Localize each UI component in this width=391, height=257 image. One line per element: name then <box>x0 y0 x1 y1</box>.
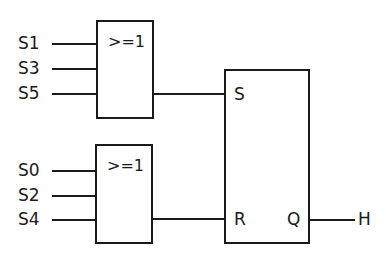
input-label-s3: S3 <box>18 60 40 77</box>
wire-s3 <box>52 68 97 70</box>
q-output-label: Q <box>287 211 300 228</box>
or-gate-2: >=1 <box>95 144 153 244</box>
set-input-label: S <box>234 86 245 103</box>
wire-s0 <box>52 170 96 172</box>
wire-s1 <box>52 43 97 45</box>
output-label-h: H <box>358 211 371 228</box>
rs-flipflop: S R Q <box>224 69 310 244</box>
input-label-s4: S4 <box>18 211 40 228</box>
input-label-s5: S5 <box>18 85 40 102</box>
or-gate-1: >=1 <box>96 20 154 119</box>
wire-s2 <box>52 195 96 197</box>
input-label-s0: S0 <box>18 162 40 179</box>
reset-input-label: R <box>234 211 246 228</box>
wire-q-output <box>309 219 355 221</box>
wire-s5 <box>52 93 97 95</box>
or-gate-2-label: >=1 <box>107 158 144 174</box>
input-label-s1: S1 <box>18 35 40 52</box>
wire-s4 <box>52 219 96 221</box>
wire-or2-to-reset <box>152 218 225 220</box>
input-label-s2: S2 <box>18 187 40 204</box>
wire-or1-to-set <box>153 93 225 95</box>
or-gate-1-label: >=1 <box>108 34 145 50</box>
